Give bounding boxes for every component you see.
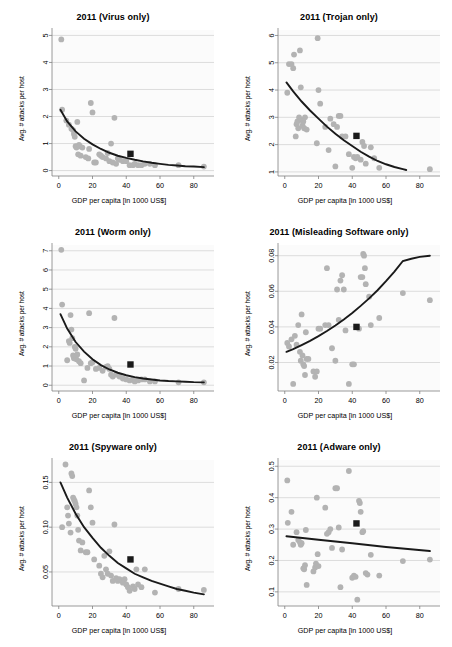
- data-point: [78, 153, 84, 159]
- data-point: [100, 574, 106, 580]
- y-axis-label: Avg. # attacks per host: [18, 506, 25, 571]
- data-point: [322, 505, 328, 511]
- data-point: [334, 287, 340, 293]
- data-point: [304, 582, 310, 588]
- y-tick-label: 0.02: [267, 356, 276, 370]
- data-point: [427, 297, 433, 303]
- y-tick-label: 0: [41, 169, 50, 173]
- data-point: [58, 37, 64, 43]
- x-axis-label: GDP per capita [in 1000 US$]: [238, 626, 452, 635]
- x-axis-label: GDP per capita [in 1000 US$]: [12, 411, 226, 420]
- x-tick-label: 40: [348, 396, 356, 405]
- data-point: [334, 485, 340, 491]
- y-tick-label: 7: [41, 249, 50, 253]
- data-point: [324, 265, 330, 271]
- data-point: [58, 247, 64, 253]
- y-tick-label: 0.5: [267, 461, 276, 471]
- data-point: [86, 488, 92, 494]
- y-axis-label: Avg. # attacks per host: [18, 76, 25, 141]
- x-tick-label: 60: [156, 396, 164, 405]
- data-point: [312, 374, 318, 380]
- y-tick-label: 3: [41, 87, 50, 91]
- data-point: [346, 151, 352, 157]
- x-tick-label: 0: [283, 611, 287, 620]
- data-point: [336, 525, 342, 531]
- data-point: [317, 101, 323, 107]
- data-point: [376, 573, 382, 579]
- data-point: [349, 165, 355, 171]
- data-point: [93, 160, 99, 166]
- data-point: [122, 576, 128, 582]
- data-point: [69, 473, 75, 479]
- x-tick-label: 60: [382, 396, 390, 405]
- data-point: [88, 100, 94, 106]
- x-tick-label: 40: [122, 181, 130, 190]
- highlight-marker: [127, 556, 133, 562]
- y-tick-label: 3: [267, 115, 276, 119]
- plot-area: 123456020406080: [226, 0, 452, 215]
- data-point: [327, 526, 333, 532]
- data-point: [59, 524, 65, 530]
- chart-panel-2: 2011 (Trojan only)123456020406080Avg. # …: [226, 0, 452, 215]
- x-tick-label: 60: [156, 611, 164, 620]
- data-point: [302, 562, 308, 568]
- data-point: [427, 166, 433, 172]
- x-tick-label: 80: [416, 611, 424, 620]
- chart-panel-3: 2011 (Worm only)01234567020406080Avg. # …: [0, 215, 226, 430]
- data-point: [315, 35, 321, 41]
- data-point: [66, 521, 72, 527]
- data-point: [315, 551, 321, 557]
- data-point: [338, 278, 344, 284]
- y-axis-label: Avg. # attacks per host: [18, 291, 25, 356]
- data-point: [363, 161, 369, 167]
- data-point: [289, 509, 295, 515]
- x-tick-label: 0: [283, 181, 287, 190]
- data-point: [358, 157, 364, 163]
- x-tick-label: 80: [190, 396, 198, 405]
- chart-panel-1: 2011 (Virus only)012345020406080Avg. # a…: [0, 0, 226, 215]
- x-tick-label: 20: [315, 181, 323, 190]
- data-point: [85, 549, 91, 555]
- data-point: [299, 540, 305, 546]
- data-point: [96, 563, 102, 569]
- data-point: [346, 468, 352, 474]
- plot-area: 0.10.20.30.40.5020406080: [226, 430, 452, 645]
- x-tick-label: 0: [57, 611, 61, 620]
- data-point: [361, 143, 367, 149]
- data-point: [285, 520, 291, 526]
- x-tick-label: 20: [89, 611, 97, 620]
- data-point: [314, 495, 320, 501]
- data-point: [368, 322, 374, 328]
- data-point: [303, 329, 309, 335]
- data-point: [290, 381, 296, 387]
- data-point: [65, 513, 71, 519]
- data-point: [316, 87, 322, 93]
- data-point: [63, 462, 69, 468]
- y-tick-label: 5: [41, 33, 50, 37]
- data-point: [112, 115, 118, 121]
- chart-panel-6: 2011 (Adware only)0.10.20.30.40.50204060…: [226, 430, 452, 645]
- data-point: [64, 505, 70, 511]
- data-point: [85, 365, 91, 371]
- y-axis-label: Avg. # attacks per host: [244, 76, 251, 141]
- data-point: [341, 287, 347, 293]
- data-point: [343, 328, 349, 334]
- y-tick-label: 3: [41, 326, 50, 330]
- x-tick-label: 40: [348, 181, 356, 190]
- data-point: [376, 165, 382, 171]
- data-point: [286, 344, 292, 350]
- y-tick-label: 0.08: [267, 249, 276, 263]
- data-point: [326, 322, 332, 328]
- data-point: [284, 90, 290, 96]
- data-point: [86, 310, 92, 316]
- data-point: [357, 500, 363, 506]
- data-point: [79, 540, 85, 546]
- data-point: [290, 65, 296, 71]
- plot-background: [278, 245, 440, 391]
- highlight-marker: [353, 133, 359, 139]
- data-point: [376, 315, 382, 321]
- data-point: [297, 48, 303, 54]
- y-axis-label: Avg. # attacks per host: [244, 291, 251, 356]
- x-tick-label: 80: [416, 396, 424, 405]
- x-tick-label: 80: [190, 611, 198, 620]
